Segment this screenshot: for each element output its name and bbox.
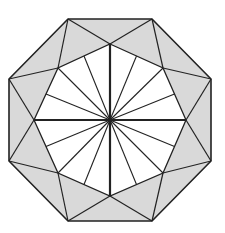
center-point bbox=[108, 118, 112, 122]
octagon-dissection-diagram bbox=[0, 0, 225, 233]
